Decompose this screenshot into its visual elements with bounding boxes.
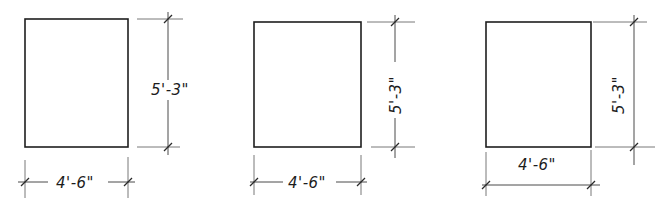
height-dimension-label: 5'-3" — [610, 76, 628, 114]
width-dimension-label: 4'-6" — [518, 156, 556, 174]
rectangle-shape — [25, 19, 128, 147]
width-dimension-label: 4'-6" — [56, 174, 94, 192]
rectangle-shape — [254, 22, 361, 147]
drawing-3: 5'-3" 4'-6" — [482, 15, 655, 196]
dimension-drawings-canvas: 5'-3" 4'-6" 5'-3" 4'-6" — [0, 0, 672, 205]
width-dimension-label: 4'-6" — [288, 174, 326, 192]
height-dimension-label: 5'-3" — [151, 81, 189, 99]
height-dimension-label: 5'-3" — [387, 76, 405, 114]
rectangle-shape — [486, 22, 591, 147]
drawing-1: 5'-3" 4'-6" — [18, 12, 189, 198]
drawing-2: 5'-3" 4'-6" — [250, 15, 415, 195]
